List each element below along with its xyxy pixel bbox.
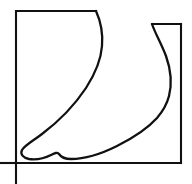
- foot-profile-diagram: [0, 0, 192, 184]
- figure-container: Foot Profile Outline: [0, 0, 192, 184]
